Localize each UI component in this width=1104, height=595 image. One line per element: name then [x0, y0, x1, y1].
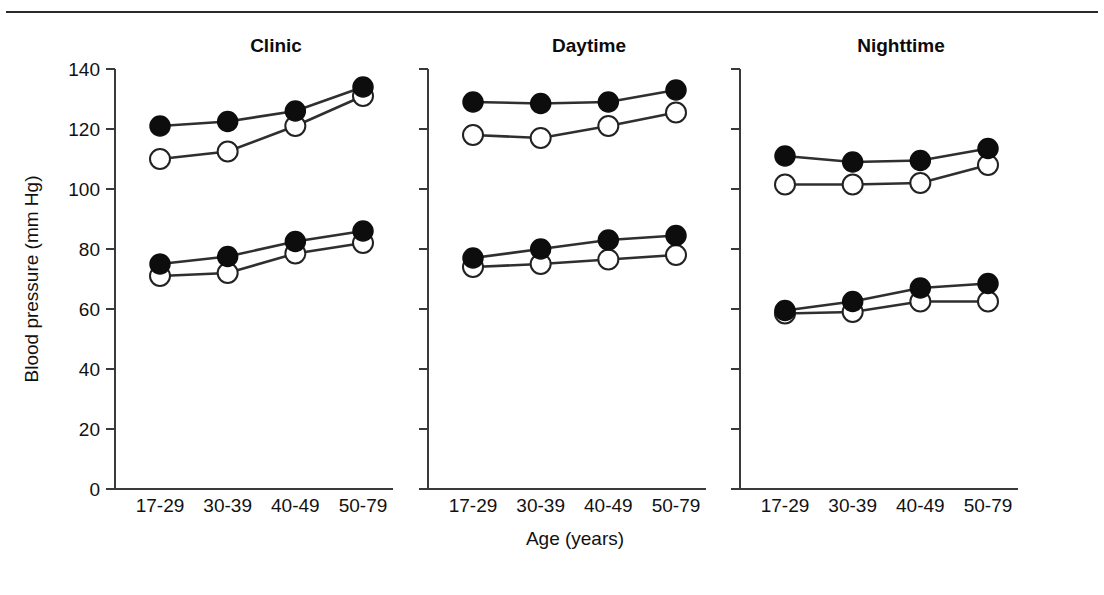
data-point-filled	[666, 226, 686, 246]
series-line	[785, 165, 988, 185]
data-point-filled	[910, 278, 930, 298]
data-point-open	[666, 245, 686, 265]
data-point-filled	[843, 292, 863, 312]
data-point-open	[150, 149, 170, 169]
series-line	[160, 87, 363, 126]
x-tick-label: 30-39	[203, 495, 252, 516]
data-point-filled	[978, 274, 998, 294]
data-point-filled	[285, 232, 305, 252]
series-line	[473, 255, 676, 267]
series-line	[473, 113, 676, 139]
data-point-open	[531, 128, 551, 148]
data-point-filled	[531, 94, 551, 114]
x-tick-label: 30-39	[516, 495, 565, 516]
data-point-filled	[150, 254, 170, 274]
data-point-filled	[598, 230, 618, 250]
data-point-filled	[353, 221, 373, 241]
data-point-filled	[775, 301, 795, 321]
y-tick-label: 60	[79, 299, 100, 320]
data-point-filled	[598, 92, 618, 112]
data-point-filled	[218, 112, 238, 132]
data-point-open	[978, 292, 998, 312]
panel-title: Clinic	[250, 35, 302, 56]
panel-title: Nighttime	[857, 35, 945, 56]
panel-daytime: Daytime17-2930-3940-4950-79	[419, 35, 706, 516]
x-tick-label: 50-79	[652, 495, 701, 516]
x-tick-label: 40-49	[271, 495, 320, 516]
y-tick-label: 40	[79, 359, 100, 380]
y-tick-label: 20	[79, 419, 100, 440]
panel-clinic: 020406080100120140Clinic17-2930-3940-495…	[68, 35, 393, 516]
data-point-filled	[978, 139, 998, 159]
x-tick-label: 50-79	[339, 495, 388, 516]
data-point-filled	[353, 77, 373, 97]
y-tick-label: 140	[68, 59, 100, 80]
data-point-filled	[150, 116, 170, 136]
x-tick-label: 30-39	[828, 495, 877, 516]
data-point-filled	[910, 151, 930, 171]
data-point-filled	[775, 146, 795, 166]
x-tick-label: 40-49	[584, 495, 633, 516]
panel-nighttime: Nighttime17-2930-3940-4950-79	[731, 35, 1018, 516]
data-point-filled	[463, 248, 483, 268]
series-line	[785, 149, 988, 163]
data-point-open	[910, 173, 930, 193]
data-point-filled	[463, 92, 483, 112]
y-axis-label: Blood pressure (mm Hg)	[21, 176, 42, 383]
y-tick-label: 80	[79, 239, 100, 260]
series-line	[160, 96, 363, 159]
x-axis-label: Age (years)	[526, 528, 624, 549]
data-point-filled	[285, 101, 305, 121]
data-point-open	[598, 250, 618, 270]
series-line	[473, 236, 676, 259]
data-point-open	[666, 103, 686, 123]
y-tick-label: 0	[89, 479, 100, 500]
x-tick-label: 40-49	[896, 495, 945, 516]
data-point-open	[775, 175, 795, 195]
data-point-open	[598, 116, 618, 136]
data-point-open	[218, 142, 238, 162]
data-point-filled	[531, 239, 551, 259]
x-tick-label: 17-29	[761, 495, 810, 516]
panels-group: 020406080100120140Clinic17-2930-3940-495…	[68, 35, 1018, 516]
y-tick-label: 100	[68, 179, 100, 200]
x-tick-label: 17-29	[136, 495, 185, 516]
series-line	[473, 90, 676, 104]
blood-pressure-chart: Blood pressure (mm Hg) Age (years) 02040…	[0, 0, 1104, 595]
data-point-filled	[843, 152, 863, 172]
x-tick-label: 17-29	[449, 495, 498, 516]
figure-root: Blood pressure (mm Hg) Age (years) 02040…	[0, 0, 1104, 595]
x-tick-label: 50-79	[964, 495, 1013, 516]
panel-title: Daytime	[552, 35, 626, 56]
data-point-open	[463, 125, 483, 145]
data-point-filled	[666, 80, 686, 100]
data-point-open	[843, 175, 863, 195]
y-tick-label: 120	[68, 119, 100, 140]
data-point-filled	[218, 247, 238, 267]
